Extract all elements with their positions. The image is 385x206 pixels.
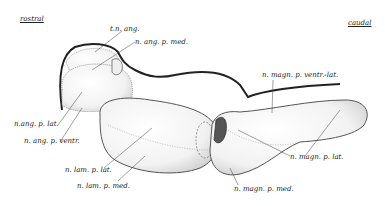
anatomical-diagram: rostral caudal t.n. ang. n. ang. p. med.… [0,0,385,206]
nuclei-illustration [0,0,385,206]
n-lam-shape [100,98,218,173]
label-n-magn-p-ventr-lat: n. magn. p. ventr.-lat. [262,72,338,79]
t-n-ang-shape [112,59,122,75]
n-magn-shape [210,100,367,175]
label-n-lam-p-lat: n. lam. p. lat. [65,167,112,174]
label-t-n-ang: t.n. ang. [110,26,139,33]
rostral-label: rostral [20,16,44,23]
label-n-ang-p-ventr: n. ang. p. ventr. [24,138,80,145]
label-n-lam-p-med: n. lam. p. med. [77,183,130,190]
label-n-ang-p-lat: n.ang. p. lat. [14,121,59,128]
label-n-magn-p-med: n. magn. p. med. [234,186,294,193]
label-n-ang-p-med: n. ang. p. med. [135,39,188,46]
label-n-magn-p-lat: n. magn. p. lat. [290,154,344,161]
caudal-label: caudal [348,20,372,27]
